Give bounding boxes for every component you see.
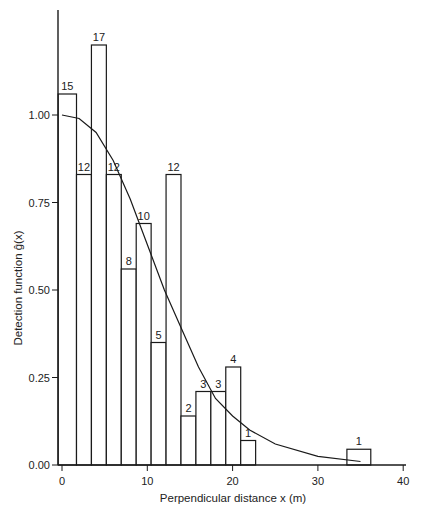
y-tick-label: 0.50	[29, 284, 50, 296]
x-axis-title: Perpendicular distance x (m)	[160, 492, 307, 504]
bar-count-label: 5	[156, 329, 162, 341]
y-tick-label: 0.00	[29, 459, 50, 471]
histogram-bar	[347, 449, 371, 465]
y-tick-label: 0.75	[29, 197, 50, 209]
y-tick-label: 1.00	[29, 109, 50, 121]
bar-count-label: 15	[61, 80, 73, 92]
bar-count-label: 10	[138, 210, 150, 222]
y-axis-title: Detection function ĝ(x)	[12, 230, 24, 345]
y-axis-ticks: 0.000.250.500.751.00	[29, 109, 58, 471]
bar-count-label: 12	[167, 161, 179, 173]
x-axis-ticks: 010203040	[59, 465, 409, 487]
histogram-bar	[151, 343, 166, 466]
histogram-bar	[181, 416, 196, 465]
x-tick-label: 0	[59, 475, 65, 487]
bar-count-label: 17	[93, 31, 105, 43]
y-tick-label: 0.25	[29, 372, 50, 384]
bar-count-label: 1	[356, 435, 362, 447]
histogram-bar	[91, 45, 106, 465]
histogram-bar	[211, 392, 226, 466]
histogram-bars	[58, 45, 371, 465]
histogram-bar	[196, 392, 211, 466]
bar-count-label: 3	[215, 378, 221, 390]
histogram-bar	[166, 175, 181, 466]
bar-count-label: 8	[126, 255, 132, 267]
histogram-bar	[77, 175, 92, 466]
bar-count-label: 4	[230, 353, 236, 365]
histogram-bar	[241, 441, 256, 466]
x-tick-label: 30	[312, 475, 324, 487]
histogram-bar	[106, 175, 121, 466]
x-tick-label: 40	[397, 475, 409, 487]
histogram-bar	[121, 269, 136, 465]
histogram-bar	[58, 94, 76, 465]
bar-count-label: 2	[185, 402, 191, 414]
detection-function-chart: 15121712810512233411 010203040 0.000.250…	[0, 0, 421, 517]
x-tick-label: 10	[141, 475, 153, 487]
histogram-bar	[136, 224, 151, 466]
x-tick-label: 20	[226, 475, 238, 487]
bar-count-label: 12	[78, 161, 90, 173]
